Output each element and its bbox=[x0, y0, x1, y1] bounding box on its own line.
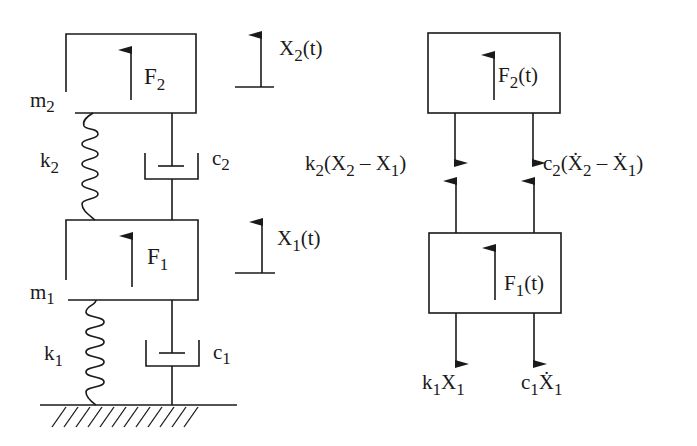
spring-k1-label: k1 bbox=[44, 341, 63, 370]
fbd-damper-force-mid-label: c2(Ẋ2 – Ẋ1) bbox=[543, 151, 643, 180]
spring-k1 bbox=[86, 300, 104, 405]
spring-k2 bbox=[82, 113, 98, 220]
lower-mass-label: m1 bbox=[30, 280, 55, 308]
displacement-1-label: X1(t) bbox=[277, 226, 321, 255]
spring-k2-label: k2 bbox=[40, 148, 59, 177]
fbd-force-2-label: F2(t) bbox=[498, 63, 538, 92]
displacement-2-label: X2(t) bbox=[279, 36, 323, 65]
force-1-label: F1 bbox=[147, 244, 168, 274]
fbd-damper-force-bottom-label: c1Ẋ1 bbox=[521, 370, 563, 399]
fbd-force-1-label: F1(t) bbox=[504, 271, 544, 300]
damper-c1-label: c1 bbox=[213, 340, 231, 368]
ground-hatching bbox=[52, 407, 198, 427]
fbd-spring-force-bottom-label: k1X1 bbox=[422, 370, 465, 399]
diagram-canvas: m2 F2 k2 c2 m1 F1 k1 c1 X2(t) X1(t) F2(t… bbox=[0, 0, 697, 446]
damper-c2-label: c2 bbox=[212, 146, 230, 174]
upper-mass-label: m2 bbox=[30, 88, 55, 116]
fbd-spring-force-mid-label: k2(X2 – X1) bbox=[305, 151, 406, 180]
force-2-label: F2 bbox=[144, 64, 165, 94]
